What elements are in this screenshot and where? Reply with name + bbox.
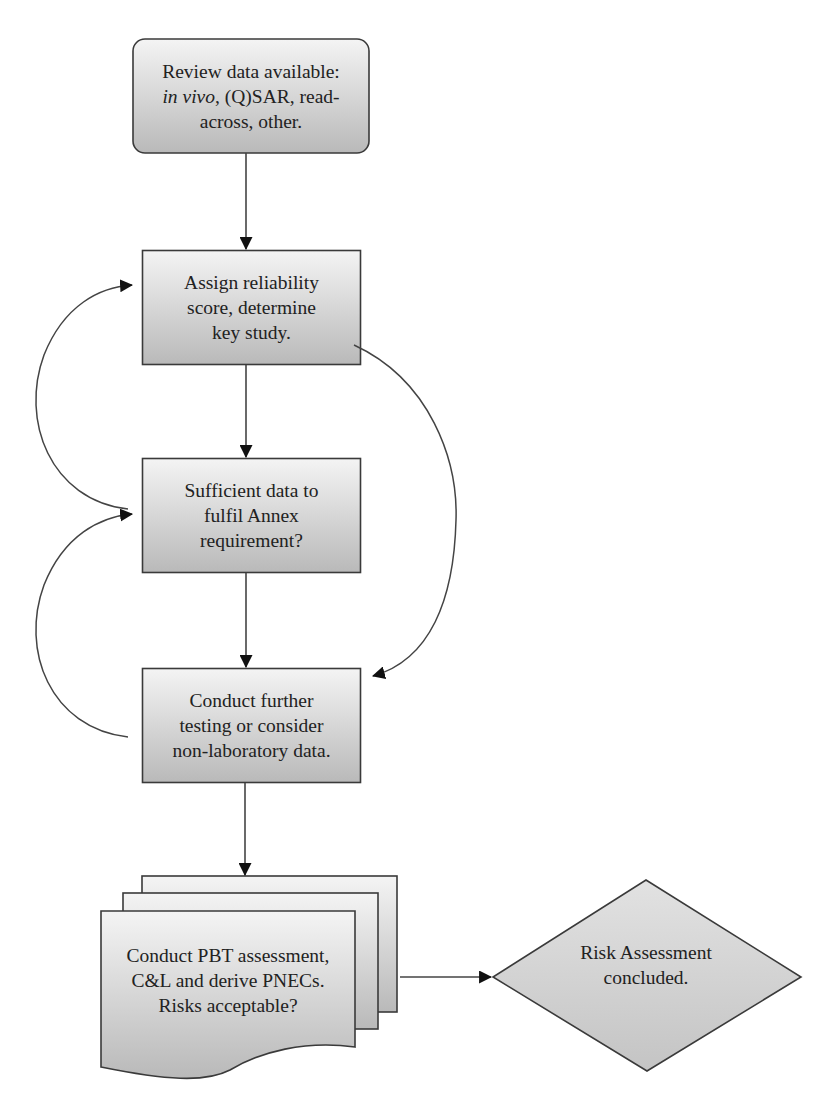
node-assign-label: Assign reliability score, determine key … [142, 250, 361, 365]
node-sufficient-label: Sufficient data to fulfil Annex requirem… [142, 458, 361, 573]
review-line-3: across, other. [162, 109, 340, 134]
sufficient-line-3: requirement? [185, 528, 319, 553]
node-pbt-label: Conduct PBT assessment, C&L and derive P… [101, 930, 355, 1030]
pbt-line-1: Conduct PBT assessment, [127, 943, 330, 968]
review-italic-term: in vivo [162, 86, 215, 107]
concluded-line-2: concluded. [580, 965, 712, 990]
edge-assign-to-conduct-arc [354, 345, 456, 676]
review-line-1: Review data available: [162, 59, 340, 84]
node-conduct-testing-label: Conduct further testing or consider non-… [142, 668, 361, 783]
review-line-2-rest: , (Q)SAR, read- [215, 86, 340, 107]
edge-conduct-to-sufficient-loop [36, 514, 132, 737]
sufficient-line-2: fulfil Annex [185, 503, 319, 528]
assign-line-1: Assign reliability [184, 270, 319, 295]
conduct-line-3: non-laboratory data. [172, 738, 330, 763]
concluded-line-1: Risk Assessment [580, 940, 712, 965]
conduct-line-2: testing or consider [172, 713, 330, 738]
pbt-line-3: Risks acceptable? [127, 993, 330, 1018]
node-review-label: Review data available: in vivo, (Q)SAR, … [133, 39, 369, 153]
assign-line-3: key study. [184, 320, 319, 345]
sufficient-line-1: Sufficient data to [185, 478, 319, 503]
conduct-line-1: Conduct further [172, 688, 330, 713]
assign-line-2: score, determine [184, 295, 319, 320]
edge-sufficient-to-assign-loop [36, 285, 132, 509]
pbt-line-2: C&L and derive PNECs. [127, 968, 330, 993]
review-line-2: in vivo, (Q)SAR, read- [162, 84, 340, 109]
node-concluded-label: Risk Assessment concluded. [540, 935, 752, 995]
